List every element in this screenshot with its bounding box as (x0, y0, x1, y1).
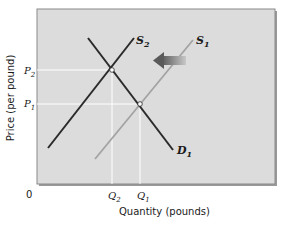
x-axis-title: Quantity (pounds) (119, 206, 210, 217)
q1-tick-label: Q1 (137, 190, 150, 204)
y-axis-title: Price (per pound) (5, 55, 16, 142)
plot-area (37, 9, 275, 184)
equilibrium-point-original (138, 102, 143, 107)
equilibrium-point-new (110, 68, 115, 73)
p1-tick-label: P1 (23, 98, 35, 112)
supply-demand-chart: S2 S1 D1 P2 P1 Q2 Q1 0 Quantity (pounds)… (0, 0, 285, 225)
q2-tick-label: Q2 (108, 190, 121, 204)
origin-label: 0 (26, 189, 32, 200)
p2-tick-label: P2 (23, 65, 36, 79)
